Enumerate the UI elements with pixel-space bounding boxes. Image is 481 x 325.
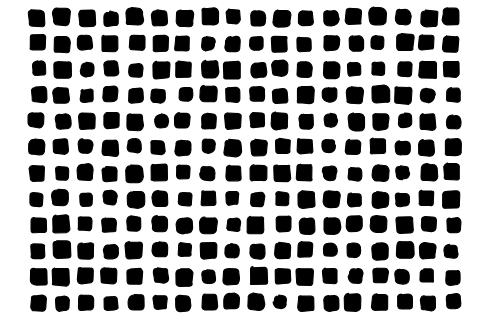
grid-square — [372, 85, 390, 103]
grid-square — [28, 10, 44, 27]
grid-square — [275, 269, 291, 284]
grid-square — [396, 241, 414, 258]
grid-square — [271, 36, 287, 52]
grid-square — [77, 268, 93, 284]
grid-square — [202, 139, 215, 153]
grid-square — [78, 139, 93, 153]
grid-square — [152, 242, 168, 257]
grid-square — [104, 61, 119, 76]
grid-square — [445, 139, 461, 156]
grid-square — [176, 61, 192, 77]
grid-square — [421, 10, 438, 27]
grid-square — [273, 295, 286, 309]
grid-square — [446, 115, 461, 129]
grid-square — [395, 193, 409, 207]
grid-square — [30, 35, 46, 50]
grid-square — [322, 140, 336, 153]
grid-square — [372, 62, 385, 75]
grid-square — [250, 244, 265, 259]
grid-square — [152, 215, 168, 231]
grid-square — [101, 268, 117, 284]
grid-square — [251, 192, 265, 206]
grid-square — [398, 62, 412, 77]
grid-square — [276, 138, 291, 153]
grid-square — [299, 114, 313, 129]
grid-square — [225, 113, 242, 130]
grid-square — [200, 167, 215, 181]
grid-square — [52, 8, 70, 26]
grid-square — [322, 268, 337, 284]
grid-square — [51, 189, 68, 205]
grid-square — [297, 37, 311, 52]
grid-square — [127, 139, 141, 153]
grid-square — [151, 10, 167, 26]
grid-square — [28, 113, 44, 128]
grid-square — [324, 113, 338, 127]
grid-square — [323, 62, 340, 79]
grid-square — [372, 165, 389, 182]
grid-square — [323, 191, 340, 208]
grid-square — [104, 11, 118, 27]
grid-square — [373, 113, 389, 130]
grid-square — [104, 297, 118, 311]
grid-square — [372, 192, 389, 209]
grid-square — [223, 61, 240, 79]
grid-square — [296, 164, 312, 181]
grid-square — [54, 62, 72, 79]
pattern-canvas — [0, 0, 481, 325]
grid-square — [153, 35, 168, 52]
grid-square — [442, 36, 458, 52]
grid-square — [421, 164, 438, 181]
grid-square — [419, 61, 437, 78]
grid-square — [177, 165, 190, 179]
grid-square — [250, 267, 267, 285]
grid-square — [29, 139, 45, 155]
grid-square — [250, 165, 267, 181]
grid-square — [77, 164, 93, 181]
grid-square — [446, 271, 460, 286]
grid-square — [272, 89, 287, 104]
grid-square — [102, 167, 117, 182]
grid-square — [151, 164, 167, 181]
grid-square — [370, 216, 387, 233]
grid-square — [153, 61, 170, 79]
grid-square — [251, 139, 268, 156]
grid-square — [224, 293, 240, 309]
grid-square — [250, 37, 264, 51]
grid-square — [176, 218, 193, 234]
grid-square — [223, 269, 240, 285]
grid-square — [56, 296, 70, 311]
grid-square — [129, 35, 145, 50]
grid-square — [418, 35, 434, 50]
grid-square — [395, 9, 411, 25]
grid-square — [224, 139, 242, 157]
grid-square — [53, 139, 68, 154]
grid-square — [420, 269, 434, 282]
grid-square — [324, 295, 339, 311]
grid-square — [247, 216, 264, 234]
grid-square — [396, 166, 410, 180]
grid-square — [398, 113, 411, 127]
grid-square — [419, 190, 434, 205]
grid-square — [152, 191, 168, 207]
grid-square — [420, 296, 435, 311]
grid-square — [30, 193, 43, 207]
grid-square — [348, 269, 363, 284]
grid-square — [419, 140, 435, 157]
grid-square — [80, 62, 94, 77]
grid-square — [78, 295, 93, 310]
grid-square — [55, 114, 71, 129]
grid-square — [373, 268, 389, 283]
grid-square — [175, 36, 190, 51]
grid-square — [275, 242, 291, 258]
grid-square — [175, 140, 191, 156]
grid-square — [273, 10, 291, 27]
grid-square — [127, 216, 141, 231]
grid-square — [297, 86, 314, 103]
grid-square — [29, 166, 44, 182]
grid-square — [370, 138, 385, 154]
grid-square — [250, 113, 265, 128]
grid-square — [297, 138, 313, 153]
grid-square — [369, 7, 387, 25]
grid-square — [80, 89, 93, 103]
